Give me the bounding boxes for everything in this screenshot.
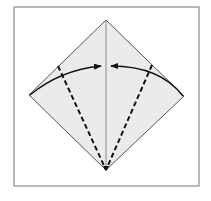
origami-diagram	[0, 0, 211, 201]
